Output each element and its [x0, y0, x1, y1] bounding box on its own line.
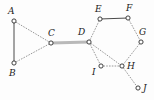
- edge-b-c: [14, 43, 51, 63]
- node-label-h: H: [127, 62, 135, 71]
- edge-d-i: [89, 42, 101, 66]
- graph-canvas: [0, 0, 154, 100]
- node-label-i: I: [92, 68, 96, 77]
- edge-d-h: [89, 42, 122, 66]
- node-label-c: C: [48, 29, 55, 38]
- node-b: [12, 61, 16, 65]
- edge-e-f: [100, 18, 128, 19]
- node-label-j: J: [143, 84, 147, 93]
- node-label-d: D: [78, 28, 85, 37]
- node-e: [98, 17, 102, 21]
- node-c: [49, 41, 53, 45]
- node-a: [12, 19, 16, 23]
- node-label-b: B: [9, 69, 16, 78]
- node-label-f: F: [126, 4, 132, 13]
- node-label-e: E: [95, 5, 102, 14]
- node-d: [87, 40, 91, 44]
- node-j: [136, 86, 140, 90]
- node-i: [99, 64, 103, 68]
- node-g: [139, 40, 143, 44]
- edge-c-d: [51, 42, 89, 43]
- edge-d-e: [89, 19, 100, 42]
- node-label-g: G: [139, 28, 146, 37]
- node-label-a: A: [8, 7, 15, 16]
- node-h: [120, 64, 124, 68]
- node-f: [126, 16, 130, 20]
- graph-diagram: ABCDEFGHIJ: [0, 0, 154, 100]
- edge-a-c: [14, 21, 51, 43]
